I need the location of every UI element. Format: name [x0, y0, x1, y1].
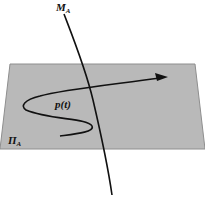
label-pi-a: ΠA [8, 134, 21, 148]
plane-pi-a [0, 64, 205, 149]
label-p-t: p(t) [55, 98, 71, 110]
label-m-a: MA [56, 1, 70, 15]
diagram-canvas [0, 0, 205, 203]
label-pi-a-sub: A [17, 140, 22, 148]
label-m-a-sub: A [66, 7, 71, 15]
label-pi-a-main: Π [8, 134, 17, 146]
label-m-a-main: M [56, 1, 66, 13]
